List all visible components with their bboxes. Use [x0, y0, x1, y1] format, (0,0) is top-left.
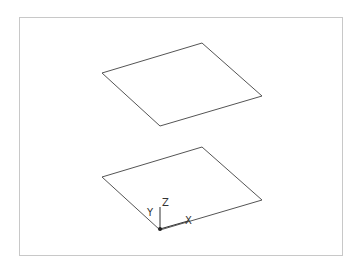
y-axis-label: Y: [146, 207, 154, 218]
drawing-canvas[interactable]: Z Y X: [0, 0, 357, 272]
ucs-origin-marker: [158, 227, 162, 231]
ucs-icon: Z Y X: [146, 197, 192, 231]
x-axis-label: X: [185, 215, 192, 226]
upper-plane[interactable]: [102, 43, 262, 126]
viewport-frame: [20, 18, 343, 256]
z-axis-label: Z: [162, 197, 169, 208]
lower-plane[interactable]: [102, 147, 262, 230]
drawing-viewport[interactable]: Z Y X: [0, 0, 357, 272]
x-axis-line: [160, 221, 188, 229]
